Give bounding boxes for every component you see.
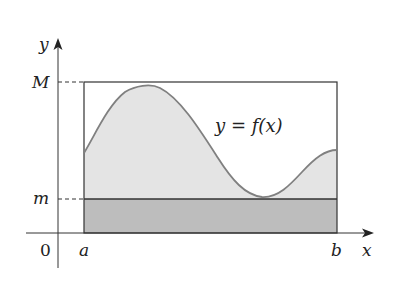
lower-bound-rectangle	[84, 199, 337, 233]
y-axis-label: y	[38, 34, 49, 54]
x-axis-label: x	[362, 240, 372, 260]
right-endpoint-label: b	[331, 240, 342, 260]
origin-label: 0	[40, 240, 51, 260]
upper-bound-label: M	[31, 72, 50, 92]
curve-label: y = f(x)	[214, 115, 283, 136]
left-endpoint-label: a	[79, 240, 89, 260]
lower-bound-label: m	[33, 188, 49, 208]
integral-bounds-diagram: y M m 0 a b x y = f(x)	[0, 0, 400, 286]
area-under-curve	[84, 85, 337, 199]
